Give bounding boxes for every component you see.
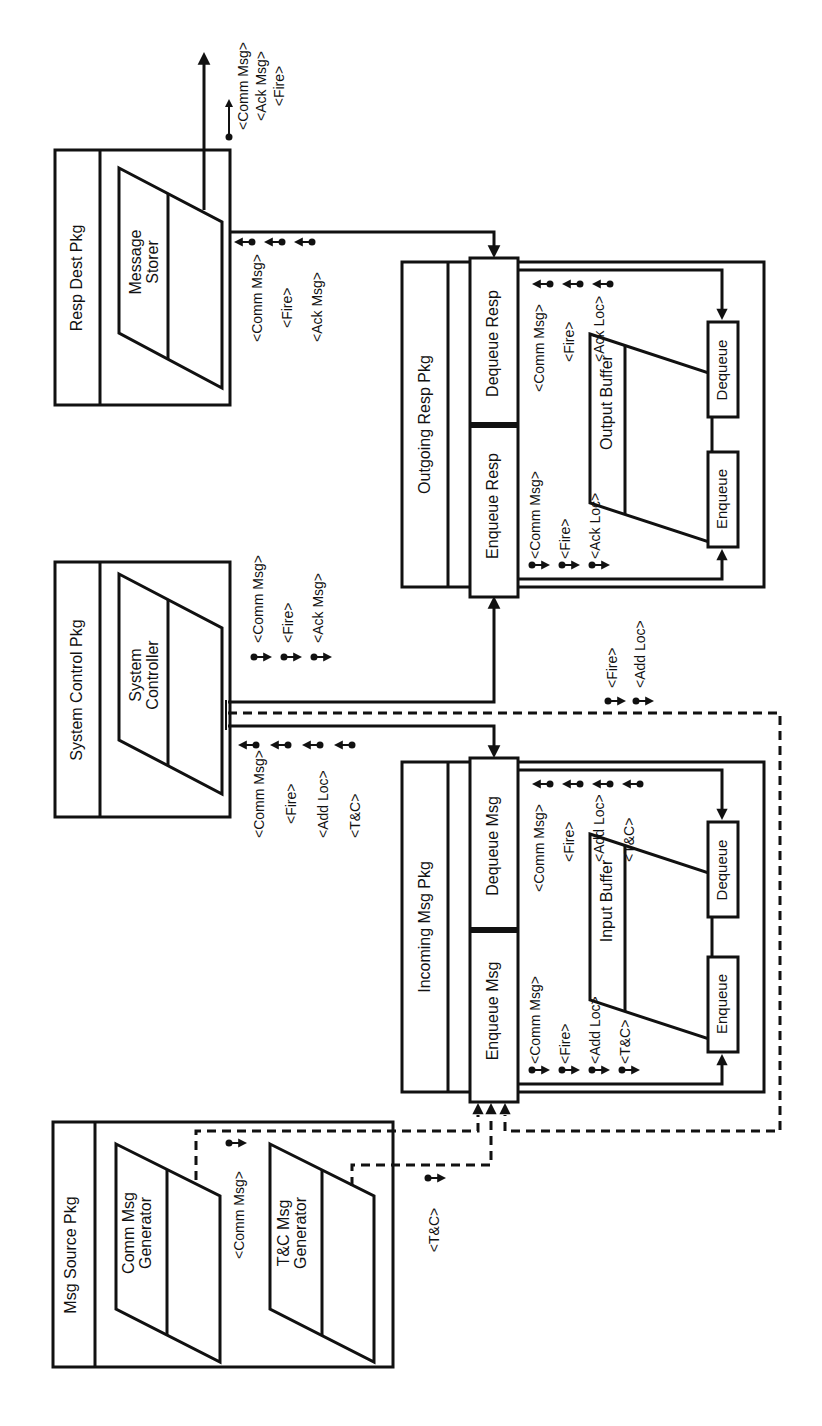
token-arrow-icon bbox=[293, 653, 302, 662]
flow-label-comm-msg: <Comm Msg> bbox=[235, 42, 251, 130]
token-arrow-icon bbox=[238, 741, 247, 750]
msg-source-pkg-title: Msg Source Pkg bbox=[62, 1196, 79, 1313]
outgoing-resp-pkg-enqueue-flow-label: <Comm Msg> bbox=[527, 471, 543, 559]
enqueue-msg-arrow-icon-1 bbox=[472, 1103, 483, 1114]
token-arrow-icon bbox=[264, 238, 273, 247]
message-storer-label-line-1: Storer bbox=[144, 240, 161, 284]
controller-dashed-flow-label: <Fire> bbox=[604, 648, 620, 688]
incoming-msg-pkg-buffer-dequeue-label: Dequeue bbox=[713, 840, 730, 901]
incoming-msg-pkg-buffer-label: Input Buffer bbox=[598, 859, 615, 942]
incoming-msg-pkg-enqueue-flow-label: <Fire> bbox=[557, 1024, 573, 1064]
dequeue-msg-arrow-icon bbox=[488, 745, 501, 758]
incoming-msg-pkg-enqueue-flow-label: <Add Loc> bbox=[587, 996, 603, 1064]
incoming-msg-pkg-dequeue-flow-label: <T&C> bbox=[621, 818, 637, 862]
controller-out-token bbox=[251, 653, 273, 662]
controller-dashed-token bbox=[633, 697, 655, 706]
controller-out-flow-label: <Fire> bbox=[280, 603, 296, 643]
resp-dest-output-token bbox=[225, 99, 233, 141]
flow-label-ack-msg: <Ack Msg> bbox=[253, 51, 269, 121]
token-arrow-icon bbox=[302, 741, 311, 750]
outgoing-resp-pkg-title: Outgoing Resp Pkg bbox=[416, 355, 433, 494]
flow-label-fire: <Fire> bbox=[271, 66, 287, 106]
system-control-pkg: System Control PkgSystemController bbox=[55, 562, 230, 817]
dequeue-resp-arrow-icon bbox=[488, 245, 501, 258]
token-arrow-icon bbox=[617, 697, 626, 706]
outgoing-resp-pkg-dequeue-op: Dequeue Resp bbox=[484, 290, 501, 397]
incoming-msg-pkg: Incoming Msg PkgDequeue MsgEnqueue MsgIn… bbox=[402, 758, 764, 1102]
outgoing-resp-pkg-op-separator bbox=[470, 422, 518, 428]
token-arrow-icon bbox=[323, 653, 332, 662]
incoming-msg-pkg-dequeue-flow-label: <Fire> bbox=[561, 822, 577, 862]
tc-msg-generator-label-line-1: Generator bbox=[292, 1196, 309, 1269]
system-controller-label-line-0: System bbox=[127, 648, 144, 701]
diagram-canvas: Resp Dest PkgMessageStorer<Comm Msg><Ack… bbox=[0, 0, 822, 1426]
controller-in-flow-label: <Fire> bbox=[283, 784, 299, 824]
token-arrow-icon bbox=[263, 653, 272, 662]
msg-source-pkg: Msg Source PkgComm MsgGeneratorT&C MsgGe… bbox=[53, 1122, 393, 1367]
outgoing-resp-pkg: Outgoing Resp PkgDequeue RespEnqueue Res… bbox=[402, 258, 764, 597]
token-arrow-icon bbox=[645, 697, 654, 706]
controller-in-token bbox=[238, 741, 260, 750]
resp-dest-pkg-title: Resp Dest Pkg bbox=[68, 225, 85, 332]
controller-out-token bbox=[281, 653, 303, 662]
architecture-diagram: Resp Dest PkgMessageStorer<Comm Msg><Ack… bbox=[0, 0, 822, 1426]
system-controller-label-line-1: Controller bbox=[144, 640, 161, 710]
controller-in-flow-label: <Comm Msg> bbox=[251, 750, 267, 838]
tc-generator-token bbox=[425, 1174, 447, 1183]
enqueue-msg-arrow-icon-3 bbox=[499, 1103, 510, 1114]
controller-to-dequeue-msg-line bbox=[228, 726, 494, 748]
message-storer-label-line-0: Message bbox=[127, 229, 144, 294]
controller-in-token bbox=[270, 741, 292, 750]
storer-in-flow-label: <Comm Msg> bbox=[249, 254, 265, 342]
outgoing-resp-pkg-dequeue-flow-label: <Ack Loc> bbox=[591, 296, 607, 362]
incoming-msg-pkg-buffer-enqueue-label: Enqueue bbox=[713, 974, 730, 1034]
incoming-msg-pkg-enqueue-flow-label: <Comm Msg> bbox=[527, 976, 543, 1064]
controller-out-flow-label: <Comm Msg> bbox=[250, 555, 266, 643]
token-arrow-icon bbox=[225, 99, 233, 107]
controller-in-token bbox=[334, 741, 356, 750]
outgoing-resp-pkg-dequeue-flow-label: <Fire> bbox=[561, 322, 577, 362]
outgoing-resp-pkg-buffer-dequeue-label: Dequeue bbox=[713, 340, 730, 401]
outgoing-resp-pkg-buffer-enqueue-label: Enqueue bbox=[713, 469, 730, 529]
storer-in-flow-label: <Ack Msg> bbox=[309, 272, 325, 342]
flow-label-tc: <T&C> bbox=[426, 1208, 442, 1252]
storer-in-token bbox=[294, 238, 316, 247]
comm-msg-generator-label-line-1: Generator bbox=[137, 1196, 154, 1269]
outgoing-resp-pkg-enqueue-flow-label: <Ack Loc> bbox=[587, 493, 603, 559]
incoming-msg-pkg-dequeue-op: Dequeue Msg bbox=[484, 796, 501, 896]
token-arrow-icon bbox=[234, 238, 243, 247]
tc-msg-generator-label-line-0: T&C Msg bbox=[275, 1200, 292, 1267]
token-arrow-icon bbox=[294, 238, 303, 247]
incoming-msg-pkg-dequeue-flow-label: <Comm Msg> bbox=[531, 804, 547, 892]
resp-dest-pkg: Resp Dest PkgMessageStorer<Comm Msg><Ack… bbox=[55, 42, 287, 405]
controller-out-flow-label: <Ack Msg> bbox=[310, 573, 326, 643]
controller-in-flow-label: <Add Loc> bbox=[315, 770, 331, 838]
comm-msg-generator-label-line-0: Comm Msg bbox=[120, 1192, 137, 1274]
outgoing-resp-pkg-dequeue-flow-label: <Comm Msg> bbox=[531, 304, 547, 392]
resp-dest-output-arrow-icon bbox=[198, 52, 211, 65]
storer-in-token bbox=[234, 238, 256, 247]
token-arrow-icon bbox=[270, 741, 279, 750]
incoming-msg-pkg-enqueue-op: Enqueue Msg bbox=[484, 962, 501, 1061]
incoming-msg-pkg-dequeue-flow-label: <Add Loc> bbox=[591, 794, 607, 862]
system-control-pkg-title: System Control Pkg bbox=[68, 619, 85, 760]
incoming-msg-pkg-enqueue-flow-label: <T&C> bbox=[617, 1020, 633, 1064]
incoming-msg-pkg-title: Incoming Msg Pkg bbox=[416, 861, 433, 993]
outgoing-resp-pkg-buffer-label: Output Buffer bbox=[598, 354, 615, 450]
outgoing-resp-pkg-enqueue-flow-label: <Fire> bbox=[557, 519, 573, 559]
token-arrow-icon bbox=[437, 1174, 446, 1183]
controller-in-flow-label: <T&C> bbox=[347, 794, 363, 838]
storer-in-token bbox=[264, 238, 286, 247]
msg-source-pkg-frame bbox=[53, 1122, 393, 1367]
controller-out-token bbox=[311, 653, 333, 662]
controller-in-token bbox=[302, 741, 324, 750]
incoming-msg-pkg-op-separator bbox=[470, 927, 518, 933]
storer-in-flow-label: <Fire> bbox=[279, 288, 295, 328]
token-arrow-icon bbox=[334, 741, 343, 750]
outgoing-resp-pkg-enqueue-op: Enqueue Resp bbox=[484, 453, 501, 559]
controller-dashed-token bbox=[605, 697, 627, 706]
enqueue-msg-arrow-icon-2 bbox=[485, 1103, 496, 1114]
flow-label-comm-msg: <Comm Msg> bbox=[231, 1171, 247, 1259]
controller-dashed-flow-label: <Add Loc> bbox=[632, 620, 648, 688]
